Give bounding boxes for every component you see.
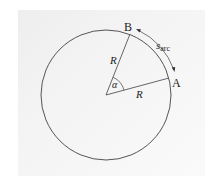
arc-length-label: sarc <box>156 39 170 53</box>
angle-alpha-label: α <box>112 79 118 90</box>
point-a-label: A <box>172 76 181 90</box>
arrowhead-b-icon <box>136 29 141 32</box>
point-b-label: B <box>124 20 132 34</box>
arrowhead-a-icon <box>172 67 176 72</box>
radius-label-lower: R <box>135 88 143 100</box>
arc-length-diagram: B A R R α sarc <box>0 0 215 186</box>
arc-length-subscript: arc <box>160 44 170 53</box>
radius-label-upper: R <box>109 54 117 66</box>
